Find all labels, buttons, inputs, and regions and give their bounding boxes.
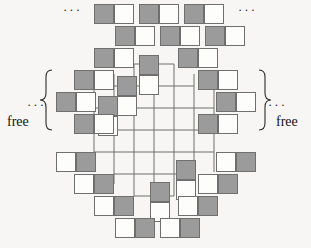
brace-left-icon <box>40 70 52 130</box>
brace-right-icon <box>259 70 271 130</box>
annotation-layer: ··· ··· ··· ··· free free <box>0 0 311 248</box>
figure-canvas: ··· ··· ··· ··· free free <box>0 0 311 248</box>
brace-svg <box>0 0 311 248</box>
